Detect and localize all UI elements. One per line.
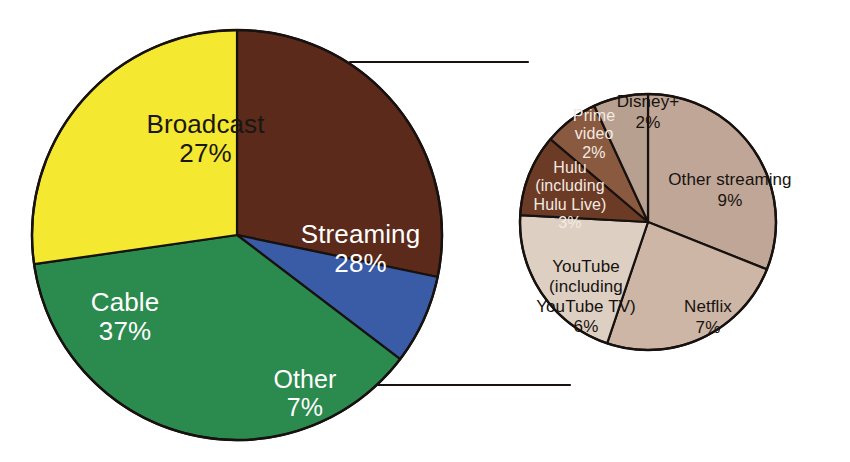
pie-chart-canvas <box>0 0 850 462</box>
pie-slice-broadcast[interactable] <box>32 30 237 264</box>
streaming-breakdown-pie <box>520 94 776 350</box>
pie-chart-figure: Broadcast 27% Streaming 28% Cable 37% Ot… <box>0 0 850 462</box>
pie-slice-streaming[interactable] <box>237 30 442 277</box>
main-pie <box>32 30 442 440</box>
